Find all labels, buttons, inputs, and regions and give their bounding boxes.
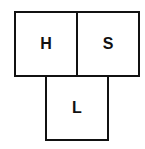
box-l-label: L [72,99,82,117]
box-h: H [14,11,78,77]
box-l: L [45,75,109,141]
box-h-label: H [40,35,52,53]
box-s-label: S [103,35,114,53]
box-s: S [76,11,140,77]
